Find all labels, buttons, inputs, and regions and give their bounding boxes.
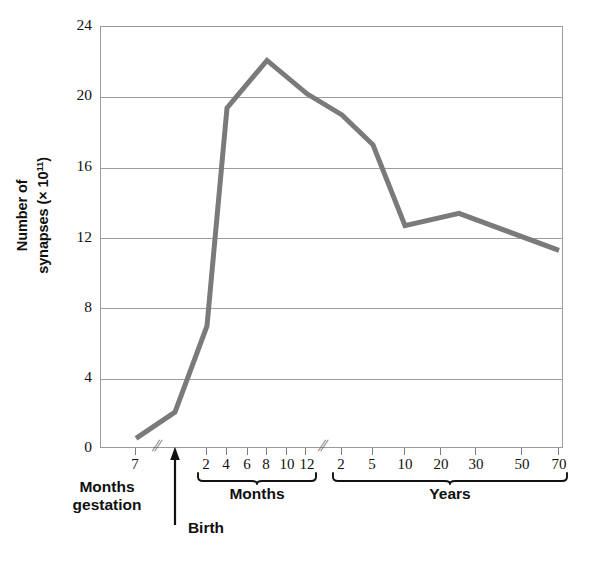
y-tick-12: 12 <box>58 228 92 246</box>
x-tickmark-year-2 <box>341 448 342 455</box>
x-tickmark-month-8 <box>266 448 267 455</box>
x-tickmark-year-30 <box>475 448 476 455</box>
y-axis-title: Number of synapses (× 1011) <box>14 90 53 340</box>
y-tick-24: 24 <box>58 16 92 34</box>
group-label-months: Months <box>229 485 284 503</box>
x-tickmark-month-10 <box>286 448 287 455</box>
x-tickmark-year-50 <box>521 448 522 455</box>
x-tickmark-year-10 <box>404 448 405 455</box>
x-tickmark-month-4 <box>226 448 227 455</box>
y-axis-title-line2: synapses (× 10 <box>35 172 51 274</box>
x-label-month-2: 2 <box>202 456 210 473</box>
x-label-month-8: 8 <box>262 456 270 473</box>
months-brace <box>196 472 318 485</box>
y-tick-20: 20 <box>58 86 92 104</box>
y-tick-4: 4 <box>58 368 92 386</box>
plot-area <box>100 26 563 448</box>
x-label-year-50: 50 <box>515 456 530 473</box>
group-label-years: Years <box>429 485 470 503</box>
x-label-gestation-7: 7 <box>131 456 139 473</box>
x-label-month-10: 10 <box>280 456 295 473</box>
x-label-year-2: 2 <box>337 456 345 473</box>
x-tickmark-year-5 <box>372 448 373 455</box>
x-label-year-10: 10 <box>398 456 413 473</box>
x-tickmark-year-70 <box>558 448 559 455</box>
x-tickmark-month-12 <box>305 448 306 455</box>
x-label-year-20: 20 <box>434 456 449 473</box>
y-axis-title-line1: Number of <box>14 180 30 252</box>
months-gestation-line1: Months <box>79 478 134 495</box>
x-tickmark-gestation-7 <box>135 448 136 455</box>
x-tickmark-month-6 <box>247 448 248 455</box>
x-label-year-30: 30 <box>469 456 484 473</box>
x-tickmark-year-20 <box>440 448 441 455</box>
years-brace <box>331 472 569 485</box>
y-tick-16: 16 <box>58 157 92 175</box>
data-line-svg <box>101 27 564 449</box>
x-label-year-70: 70 <box>552 456 567 473</box>
x-label-month-12: 12 <box>300 456 315 473</box>
birth-arrow-icon <box>167 447 183 525</box>
group-label-birth: Birth <box>188 519 224 537</box>
x-label-month-6: 6 <box>243 456 251 473</box>
y-axis-title-exponent: 11 <box>34 162 45 172</box>
x-label-month-4: 4 <box>222 456 230 473</box>
y-axis-title-paren: ) <box>35 157 51 162</box>
chart-figure: Number of synapses (× 1011) 24 20 16 12 … <box>0 0 589 561</box>
x-tickmark-month-2 <box>206 448 207 455</box>
x-label-year-5: 5 <box>368 456 376 473</box>
months-gestation-line2: gestation <box>73 496 142 513</box>
y-tick-8: 8 <box>58 298 92 316</box>
y-tick-0: 0 <box>58 438 92 456</box>
group-label-months-gestation: Months gestation <box>73 478 142 514</box>
series-line-synapses <box>136 60 559 438</box>
